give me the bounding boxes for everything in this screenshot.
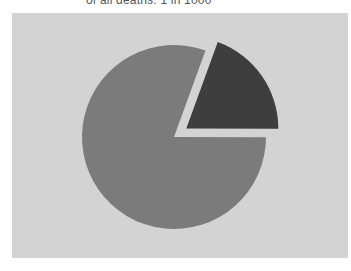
pie-chart [0,0,351,271]
